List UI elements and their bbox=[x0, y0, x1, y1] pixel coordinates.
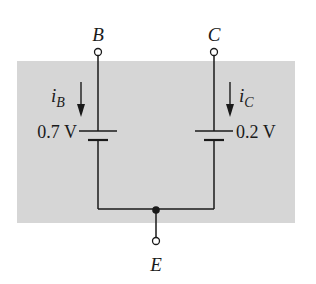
terminal-e-circle bbox=[153, 238, 160, 245]
terminal-e-label: E bbox=[149, 254, 162, 275]
junction-dot bbox=[152, 206, 160, 214]
voltage-label-collector: 0.2 V bbox=[236, 122, 276, 142]
shaded-region bbox=[17, 61, 295, 223]
terminal-c-label: C bbox=[208, 24, 221, 45]
circuit-diagram: B C E iB iC 0.7 V 0.2 V bbox=[0, 0, 316, 284]
voltage-label-base: 0.7 V bbox=[37, 122, 77, 142]
terminal-c-circle bbox=[211, 49, 218, 56]
terminal-b-circle bbox=[95, 49, 102, 56]
terminal-b-label: B bbox=[92, 24, 104, 45]
